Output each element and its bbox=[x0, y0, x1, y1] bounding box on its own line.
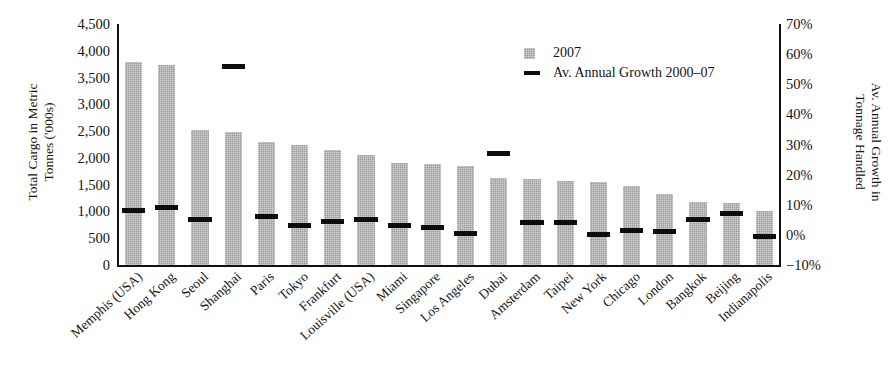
growth-marker[interactable] bbox=[321, 219, 344, 224]
bar-group[interactable] bbox=[158, 24, 175, 265]
growth-marker[interactable] bbox=[255, 214, 278, 219]
growth-marker[interactable] bbox=[421, 225, 444, 230]
bar-group[interactable] bbox=[125, 24, 142, 265]
bar-group[interactable] bbox=[391, 24, 408, 265]
bar[interactable] bbox=[258, 142, 275, 265]
bar-group[interactable] bbox=[225, 24, 242, 265]
y-tick-left: 2,500 bbox=[56, 124, 110, 139]
bar-group[interactable] bbox=[357, 24, 374, 265]
growth-marker[interactable] bbox=[155, 205, 178, 210]
chart-legend: 2007 Av. Annual Growth 2000–07 bbox=[524, 44, 774, 84]
legend-item-2007: 2007 bbox=[524, 44, 774, 62]
growth-marker[interactable] bbox=[188, 217, 211, 222]
y-tick-left: 1,500 bbox=[56, 178, 110, 193]
y-axis-right-ticks: −10%0%10%20%30%40%50%60%70% bbox=[786, 0, 856, 390]
y-tick-left: 4,000 bbox=[56, 44, 110, 59]
y-axis-left-line bbox=[117, 24, 119, 267]
bar-group[interactable] bbox=[424, 24, 441, 265]
bar[interactable] bbox=[623, 186, 640, 265]
y-axis-right-title-line1: Av. Annual Growth in bbox=[869, 83, 884, 202]
growth-marker[interactable] bbox=[686, 217, 709, 222]
growth-marker[interactable] bbox=[288, 223, 311, 228]
bar[interactable] bbox=[391, 163, 408, 265]
y-tick-right: 20% bbox=[786, 168, 844, 183]
growth-marker[interactable] bbox=[620, 228, 643, 233]
cargo-airports-chart: Total Cargo in Metric Tonnes ('000s) Av.… bbox=[0, 0, 893, 390]
growth-marker[interactable] bbox=[587, 232, 610, 237]
bar[interactable] bbox=[424, 164, 441, 265]
bar[interactable] bbox=[158, 65, 175, 265]
y-tick-right: 0% bbox=[786, 228, 844, 243]
bar[interactable] bbox=[225, 132, 242, 265]
growth-marker[interactable] bbox=[520, 220, 543, 225]
y-tick-left: 500 bbox=[56, 231, 110, 246]
growth-marker[interactable] bbox=[454, 231, 477, 236]
y-tick-left: 3,000 bbox=[56, 97, 110, 112]
legend-label-growth: Av. Annual Growth 2000–07 bbox=[553, 65, 714, 81]
y-tick-right: −10% bbox=[786, 258, 844, 273]
bar[interactable] bbox=[590, 182, 607, 265]
bar-group[interactable] bbox=[457, 24, 474, 265]
y-tick-left: 0 bbox=[56, 258, 110, 273]
y-tick-left: 4,500 bbox=[56, 17, 110, 32]
legend-item-growth: Av. Annual Growth 2000–07 bbox=[524, 64, 774, 82]
bar-group[interactable] bbox=[258, 24, 275, 265]
y-tick-left: 1,000 bbox=[56, 204, 110, 219]
bar[interactable] bbox=[490, 178, 507, 265]
growth-marker[interactable] bbox=[720, 211, 743, 216]
growth-marker[interactable] bbox=[122, 208, 145, 213]
legend-label-2007: 2007 bbox=[553, 45, 581, 61]
y-tick-right: 70% bbox=[786, 17, 844, 32]
x-tick-label: Paris bbox=[247, 269, 277, 298]
bar[interactable] bbox=[457, 166, 474, 265]
y-axis-right-line bbox=[779, 24, 781, 267]
legend-swatch-bar-icon bbox=[524, 48, 546, 59]
bar[interactable] bbox=[324, 150, 341, 265]
bar[interactable] bbox=[357, 155, 374, 265]
bar-group[interactable] bbox=[490, 24, 507, 265]
x-axis-labels: Memphis (USA)Hong KongSeoulShanghaiParis… bbox=[117, 267, 781, 390]
bar[interactable] bbox=[689, 202, 706, 265]
growth-marker[interactable] bbox=[554, 220, 577, 225]
y-tick-right: 10% bbox=[786, 198, 844, 213]
y-tick-left: 3,500 bbox=[56, 71, 110, 86]
bar[interactable] bbox=[291, 145, 308, 265]
legend-swatch-line-icon bbox=[524, 71, 546, 75]
growth-marker[interactable] bbox=[653, 229, 676, 234]
bar[interactable] bbox=[125, 62, 142, 266]
y-tick-left: 2,000 bbox=[56, 151, 110, 166]
growth-marker[interactable] bbox=[354, 217, 377, 222]
bar-group[interactable] bbox=[324, 24, 341, 265]
y-axis-right-title: Av. Annual Growth in Tonnage Handled bbox=[852, 37, 884, 247]
growth-marker[interactable] bbox=[753, 234, 776, 239]
y-axis-left-title-line1: Total Cargo in Metric bbox=[25, 84, 40, 201]
growth-marker[interactable] bbox=[388, 223, 411, 228]
growth-marker[interactable] bbox=[487, 151, 510, 156]
bar-group[interactable] bbox=[191, 24, 208, 265]
bar[interactable] bbox=[191, 130, 208, 265]
y-tick-right: 30% bbox=[786, 138, 844, 153]
y-tick-right: 60% bbox=[786, 47, 844, 62]
y-tick-right: 50% bbox=[786, 77, 844, 92]
growth-marker[interactable] bbox=[222, 64, 245, 69]
bar-group[interactable] bbox=[291, 24, 308, 265]
y-tick-right: 40% bbox=[786, 107, 844, 122]
